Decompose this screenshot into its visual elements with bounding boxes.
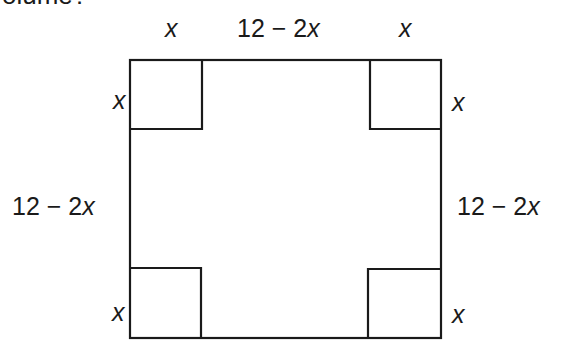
label-left-bottom-x: x bbox=[112, 300, 125, 325]
corner-square-top-right bbox=[370, 60, 441, 129]
label-right-bottom-x: x bbox=[452, 302, 465, 327]
label-right-middle: 12 − 2x bbox=[457, 194, 540, 219]
corner-square-top-left bbox=[130, 60, 202, 129]
label-top-middle: 12 − 2x bbox=[237, 16, 320, 41]
outer-square bbox=[130, 60, 441, 338]
label-top-right-x: x bbox=[399, 16, 412, 41]
label-right-top-x: x bbox=[452, 90, 465, 115]
corner-square-bottom-left bbox=[130, 268, 201, 338]
label-left-middle: 12 − 2x bbox=[12, 194, 95, 219]
label-left-top-x: x bbox=[113, 88, 126, 113]
box-net-diagram bbox=[0, 0, 573, 354]
corner-square-bottom-right bbox=[368, 269, 441, 338]
label-top-left-x: x bbox=[165, 16, 178, 41]
